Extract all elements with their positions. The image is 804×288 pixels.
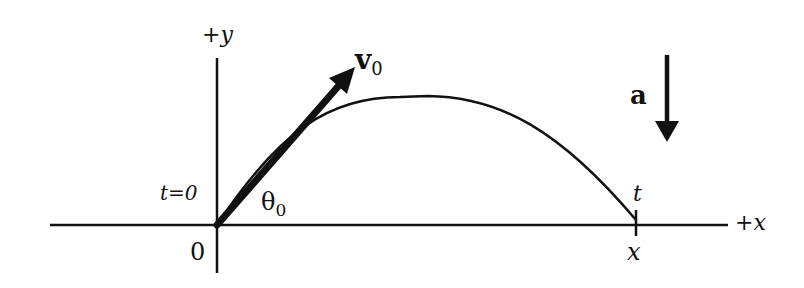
origin-label: 0 <box>190 240 205 264</box>
launch-angle-label: θ0 <box>261 190 286 214</box>
y-axis-label: +y <box>202 24 233 46</box>
projectile-diagram: +y +x 0 v0 θ0 t=0 t x a <box>0 0 804 288</box>
initial-velocity-label: v0 <box>355 46 383 74</box>
diagram-canvas <box>0 0 804 288</box>
end-position-label: x <box>627 240 641 264</box>
x-axis-label: +x <box>735 212 766 234</box>
acceleration-label: a <box>630 82 647 108</box>
end-time-label: t <box>633 183 642 205</box>
start-time-label: t=0 <box>160 183 198 203</box>
acceleration-arrow <box>655 55 679 142</box>
